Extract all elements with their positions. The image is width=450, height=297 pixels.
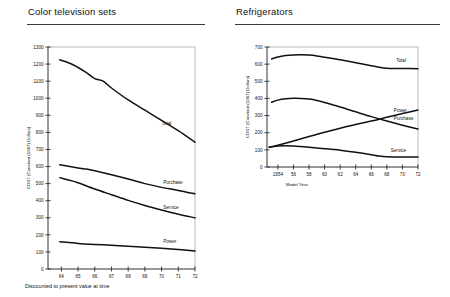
xtick-label: 68 xyxy=(384,172,390,177)
title-divider-left xyxy=(27,24,205,25)
chart-svg-right: 0100200300400500600700 19545658606264666… xyxy=(225,35,450,205)
chart-xtick-labels-left: 646566676869707172 xyxy=(59,274,198,279)
chart-color-television-sets: 0100200300400500600700800900100011001200… xyxy=(0,30,225,290)
chart-series-labels-left: TotalPurchaseServicePower xyxy=(162,121,184,244)
ytick-label: 100 xyxy=(36,250,44,255)
series-label-service: Service xyxy=(391,148,407,153)
yaxis-title: COST (Constant (1967) Dollars) xyxy=(245,75,250,138)
yaxis-title: COST (Constant (1967) Dollars) xyxy=(26,126,31,189)
ytick-label: 200 xyxy=(255,130,263,135)
ytick-label: 900 xyxy=(36,113,44,118)
chart-refrigerators: 0100200300400500600700 19545658606264666… xyxy=(225,35,450,205)
xtick-label: 69 xyxy=(142,274,148,279)
ytick-label: 0 xyxy=(41,267,44,272)
series-label-total: Total xyxy=(162,121,172,126)
figure-title-right: Refrigerators xyxy=(236,6,293,17)
xtick-label: 64 xyxy=(353,172,359,177)
xtick-label: 72 xyxy=(192,274,198,279)
xaxis-title: Model Year xyxy=(286,182,309,187)
xtick-label: 62 xyxy=(338,172,344,177)
figure-title-left: Color television sets xyxy=(28,6,116,17)
xtick-label: 67 xyxy=(109,274,115,279)
ytick-label: 500 xyxy=(255,79,263,84)
figure-footnote-left: Discounted to present value at time xyxy=(25,283,110,289)
ytick-label: 1000 xyxy=(33,96,44,101)
ytick-label: 700 xyxy=(36,147,44,152)
ytick-label: 500 xyxy=(36,181,44,186)
xtick-label: 66 xyxy=(92,274,98,279)
chart-frame-left xyxy=(48,47,195,269)
xtick-label: 68 xyxy=(126,274,132,279)
ytick-label: 1200 xyxy=(33,62,44,67)
chart-ytick-labels-left: 0100200300400500600700800900100011001200… xyxy=(33,45,44,272)
xtick-label: 70 xyxy=(400,172,406,177)
ytick-label: 800 xyxy=(36,130,44,135)
figure-panel-color-television-sets: Color television sets 010020030040050060… xyxy=(0,0,225,297)
chart-series-left xyxy=(60,60,195,251)
xtick-label: 56 xyxy=(291,172,297,177)
figure-panel-refrigerators: Refrigerators 0100200300400500600700 195… xyxy=(225,0,450,297)
series-label-power: Power xyxy=(163,239,176,244)
chart-svg-left: 0100200300400500600700800900100011001200… xyxy=(0,30,225,290)
xtick-label: 65 xyxy=(76,274,82,279)
series-label-power: Power xyxy=(394,108,407,113)
xtick-label: 72 xyxy=(415,172,421,177)
chart-ytick-labels-right: 0100200300400500600700 xyxy=(255,45,263,170)
chart-yaxis-title-right: COST (Constant (1967) Dollars) xyxy=(245,75,250,138)
xtick-label: 66 xyxy=(369,172,375,177)
ytick-label: 1100 xyxy=(34,79,44,84)
chart-xaxis-title-right: Model Year xyxy=(286,182,309,187)
series-label-purchase: Purchase xyxy=(163,180,183,185)
ytick-label: 200 xyxy=(36,233,44,238)
title-divider-right xyxy=(235,24,440,25)
chart-series-right xyxy=(269,55,418,157)
series-label-purchase: Purchase xyxy=(394,116,414,121)
ytick-label: 400 xyxy=(255,96,263,101)
xtick-label: 64 xyxy=(59,274,65,279)
chart-ticks-left xyxy=(45,47,195,272)
ytick-label: 600 xyxy=(36,164,44,169)
ytick-label: 700 xyxy=(255,45,263,50)
ytick-label: 0 xyxy=(260,165,263,170)
series-label-total: Total xyxy=(396,58,406,63)
ytick-label: 600 xyxy=(255,62,263,67)
ytick-label: 400 xyxy=(36,198,44,203)
xtick-label: 70 xyxy=(159,274,165,279)
xtick-label: 60 xyxy=(322,172,328,177)
ytick-label: 300 xyxy=(255,113,263,118)
chart-yaxis-title-left: COST (Constant (1967) Dollars) xyxy=(26,126,31,189)
ytick-label: 300 xyxy=(36,215,44,220)
series-line-purchase xyxy=(272,98,418,129)
xtick-label: 1954 xyxy=(273,172,284,177)
chart-series-labels-right: TotalPurchasePowerService xyxy=(391,58,414,153)
series-label-service: Service xyxy=(163,205,179,210)
xtick-label: 58 xyxy=(306,172,312,177)
ytick-label: 1300 xyxy=(33,45,44,50)
chart-xtick-labels-right: 1954565860626466687072 xyxy=(273,172,421,177)
xtick-label: 71 xyxy=(176,274,182,279)
series-line-total xyxy=(60,60,195,142)
ytick-label: 100 xyxy=(255,148,263,153)
figure-page: Color television sets 010020030040050060… xyxy=(0,0,450,297)
